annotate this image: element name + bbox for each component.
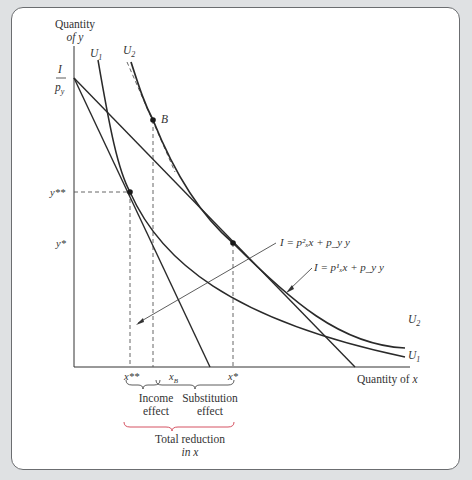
total-reduction-line2: in x <box>130 446 250 459</box>
point-b <box>150 117 156 123</box>
u2-right-label: U2 <box>408 313 420 330</box>
x-axis-label: Quantity of x <box>357 373 418 386</box>
y-axis-label-line1: Quantity <box>52 18 98 31</box>
total-reduction-label: Total reduction in x <box>130 433 250 459</box>
substitution-effect-brace <box>156 380 234 389</box>
original-budget-line <box>74 78 355 367</box>
substitution-effect-label: Substitution effect <box>170 392 250 418</box>
new-budget-line <box>74 78 210 367</box>
substitution-effect-line2: effect <box>170 405 250 418</box>
y-axis-label-line2: of y <box>52 31 98 44</box>
y-star-label: y* <box>56 237 66 250</box>
total-reduction-brace <box>124 422 234 431</box>
x-star-label: x* <box>228 370 238 383</box>
point-new-optimum <box>127 189 133 195</box>
u1-right-label: U1 <box>408 349 420 366</box>
u1-curve <box>98 60 405 357</box>
u2-curve <box>131 62 405 348</box>
point-original-optimum <box>230 240 236 246</box>
new-budget-label: I = p²ₓx + p_y y <box>280 236 350 249</box>
point-b-label: B <box>161 113 168 126</box>
original-budget-label: I = p¹ₓx + p_y y <box>314 261 384 274</box>
u2-top-label: U2 <box>123 44 135 61</box>
intercept-numerator: I <box>58 63 62 76</box>
u1-top-label: U1 <box>90 47 102 64</box>
y-axis-label: Quantity of y <box>52 18 98 44</box>
total-reduction-line1: Total reduction <box>130 433 250 446</box>
x-b-label: xB <box>169 370 178 388</box>
intercept-denominator: py <box>55 81 64 98</box>
x-double-star-label: x** <box>124 370 139 383</box>
substitution-effect-line1: Substitution <box>170 392 250 405</box>
y-double-star-label: y** <box>50 186 65 199</box>
